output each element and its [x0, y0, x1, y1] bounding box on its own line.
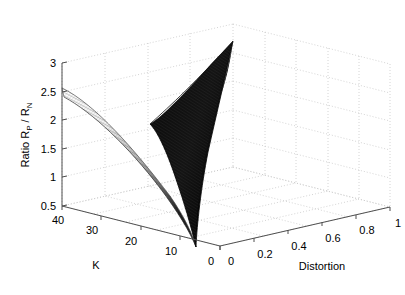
- z-axis-label-middle: / R: [19, 108, 31, 125]
- z-tick-label-0p5: 0.5: [41, 200, 56, 212]
- y-tick-label-0: 0: [228, 255, 234, 267]
- x-tick-label-40: 40: [52, 214, 64, 226]
- z-tick-label-2p5: 2.5: [41, 86, 56, 98]
- x-tick-label-10: 10: [165, 245, 177, 257]
- figure-panel: 3 2.5 2 1.5 1 0.5 40 30 20 10 0 0 0.2 0.…: [0, 0, 405, 295]
- z-axis-label-prefix: Ratio R: [19, 131, 31, 168]
- y-tick-label-1: 1: [395, 217, 401, 229]
- y-tick-label-0p8: 0.8: [359, 224, 374, 236]
- z-tick-label-2: 2: [50, 114, 56, 126]
- x-tick-label-20: 20: [125, 235, 137, 247]
- y-axis-label: Distortion: [299, 260, 345, 272]
- z-axis-label-sub-n: N: [25, 102, 34, 108]
- y-tick-label-0p4: 0.4: [291, 240, 306, 252]
- z-tick-label-1: 1: [50, 171, 56, 183]
- surface-plot-svg: 3 2.5 2 1.5 1 0.5 40 30 20 10 0 0 0.2 0.…: [0, 0, 405, 295]
- y-tick-label-0p6: 0.6: [325, 232, 340, 244]
- z-tick-label-3: 3: [50, 57, 56, 69]
- x-tick-label-0: 0: [208, 255, 214, 267]
- z-tick-label-1p5: 1.5: [41, 143, 56, 155]
- x-tick-label-30: 30: [86, 224, 98, 236]
- x-axis-label: K: [92, 259, 100, 271]
- y-tick-label-0p2: 0.2: [257, 248, 272, 260]
